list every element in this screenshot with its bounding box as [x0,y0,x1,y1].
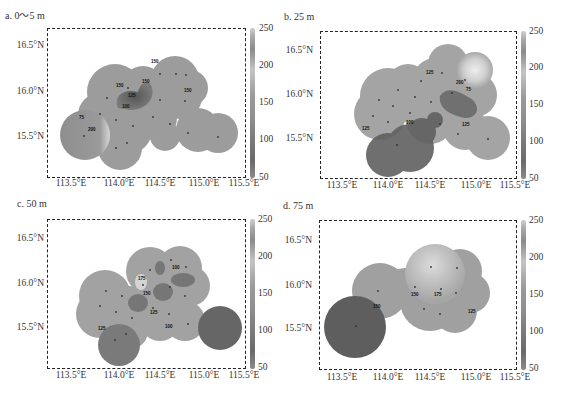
cbar-tick-d-0: 250 [529,215,543,225]
x-tick-c-3: 115.0°E [182,370,226,380]
cbar-tick-a-0: 250 [259,23,273,33]
y-tick-c-1: 16.0°N [0,278,44,288]
panel-a: a. 0～5 m [0,0,281,196]
y-tick-c-0: 16.5°N [0,233,44,243]
x-tick-b-2: 114.5°E [408,180,452,190]
cbar-tick-c-0: 250 [258,214,272,224]
map-frame-b [320,31,517,179]
x-tick-b-0: 113.5°E [320,180,364,190]
x-tick-d-0: 113.5°E [320,372,364,382]
colorbar-c [250,219,255,369]
cbar-tick-d-1: 200 [529,252,543,262]
cbar-tick-b-0: 250 [529,26,543,36]
y-tick-a-0: 16.5°N [0,40,44,50]
x-tick-d-1: 114.0°E [366,372,410,382]
x-tick-c-0: 113.5°E [49,370,93,380]
colorbar-d [521,220,526,370]
x-tick-a-1: 114.0°E [97,178,141,188]
cbar-tick-b-4: 50 [529,173,539,183]
panel-b: b. 25 m [280,0,561,196]
colorbar-b [521,31,526,179]
map-frame-d [319,220,517,370]
panel-c: c. 50 m [0,196,281,392]
map-frame-a [47,28,246,178]
x-tick-d-2: 114.5°E [408,372,452,382]
cbar-tick-a-1: 200 [259,60,273,70]
colorbar-a [250,28,255,178]
x-tick-d-4: 115.5°E [493,372,537,382]
y-tick-b-0: 16.5°N [269,45,313,55]
x-tick-c-1: 114.0°E [97,370,141,380]
y-tick-d-1: 16.0°N [268,280,312,290]
x-tick-b-3: 115.0°E [454,180,498,190]
x-tick-a-3: 115.0°E [182,178,226,188]
x-tick-b-1: 114.0°E [366,180,410,190]
x-tick-a-2: 114.5°E [138,178,182,188]
y-tick-c-2: 15.5°N [0,322,44,332]
cbar-tick-c-1: 200 [258,251,272,261]
y-tick-a-2: 15.5°N [0,131,44,141]
cbar-tick-d-4: 50 [529,363,539,373]
cbar-tick-b-3: 100 [529,136,543,146]
y-tick-a-1: 16.0°N [0,86,44,96]
y-tick-d-2: 15.5°N [268,323,312,333]
panel-d: d. 75 m 150 175 150 125 16.5° [280,196,561,392]
cbar-tick-b-2: 150 [529,99,543,109]
x-tick-c-2: 114.5°E [138,370,182,380]
cbar-tick-b-1: 200 [529,62,543,72]
map-frame-c [47,219,246,369]
y-tick-d-0: 16.5°N [268,235,312,245]
x-tick-d-3: 115.0°E [454,372,498,382]
cbar-tick-d-2: 150 [529,289,543,299]
cbar-tick-d-3: 100 [529,326,543,336]
cbar-tick-a-4: 50 [259,172,269,182]
cbar-tick-c-4: 50 [258,362,268,372]
x-tick-a-0: 113.5°E [49,178,93,188]
y-tick-b-2: 15.5°N [269,133,313,143]
y-tick-b-1: 16.0°N [269,89,313,99]
